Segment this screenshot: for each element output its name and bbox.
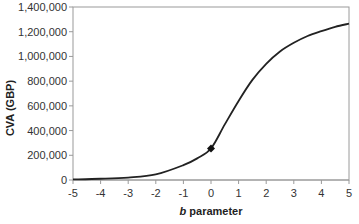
- y-tick-label: 1,400,000: [18, 1, 67, 13]
- x-tick-label: -4: [96, 187, 106, 199]
- y-axis-title: CVA (GBP): [4, 101, 16, 115]
- x-axis-title-rest: parameter: [186, 205, 242, 217]
- x-tick-label: 1: [236, 187, 242, 199]
- x-axis-title-var: b: [180, 205, 187, 217]
- y-tick-label: 1,200,000: [18, 26, 67, 38]
- x-tick-label: -5: [68, 187, 78, 199]
- y-axis: 0200,000400,000600,000800,0001,000,0001,…: [18, 1, 73, 186]
- y-tick-label: 400,000: [27, 125, 67, 137]
- x-tick-label: 0: [208, 187, 214, 199]
- x-tick-label: 4: [318, 187, 324, 199]
- cva-line-chart: 0200,000400,000600,000800,0001,000,0001,…: [0, 0, 359, 224]
- x-axis-title: b parameter: [180, 205, 243, 217]
- y-tick-label: 800,000: [27, 75, 67, 87]
- y-tick-label: 200,000: [27, 149, 67, 161]
- y-tick-label: 600,000: [27, 100, 67, 112]
- x-tick-label: -3: [123, 187, 133, 199]
- y-tick-label: 1,000,000: [18, 50, 67, 62]
- y-tick-label: 0: [61, 174, 67, 186]
- x-tick-label: -2: [151, 187, 161, 199]
- x-tick-label: 2: [263, 187, 269, 199]
- plot-area: [73, 7, 349, 180]
- y-axis-title-text: CVA (GBP): [4, 80, 16, 136]
- x-tick-label: 3: [291, 187, 297, 199]
- x-tick-label: -1: [179, 187, 189, 199]
- x-tick-label: 5: [346, 187, 352, 199]
- x-axis: -5-4-3-2-1012345: [68, 180, 352, 199]
